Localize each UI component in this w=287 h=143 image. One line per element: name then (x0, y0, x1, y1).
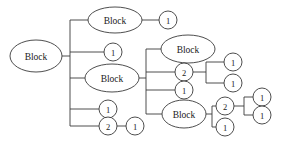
node-label: 2 (223, 102, 227, 112)
node-label: 1 (133, 122, 137, 132)
node-label: 1 (182, 86, 186, 96)
leaf-node[interactable]: 1 (99, 100, 117, 118)
node-label: Block (173, 110, 196, 120)
node-label: 1 (223, 123, 227, 133)
leaf-node[interactable]: 1 (224, 74, 242, 92)
node-label: 1 (231, 58, 235, 68)
node-label: 1 (111, 48, 115, 58)
block-node[interactable]: Block (162, 100, 206, 128)
nodes-layer: BlockBlock11BlockBlock2111Block2111121 (10, 7, 271, 136)
node-label: Block (25, 52, 48, 62)
leaf-node[interactable]: 1 (104, 43, 122, 61)
leaf-node[interactable]: 2 (216, 97, 234, 115)
block-node[interactable]: Block (85, 64, 139, 92)
node-label: 1 (106, 105, 110, 115)
node-label: 1 (260, 93, 264, 103)
leaf-node[interactable]: 1 (216, 118, 234, 136)
node-label: Block (101, 74, 124, 84)
leaf-node[interactable]: 1 (253, 106, 271, 124)
node-label: 1 (166, 16, 170, 26)
node-label: 2 (106, 122, 110, 132)
node-label: Block (104, 16, 127, 26)
tree-diagram-canvas: BlockBlock11BlockBlock2111Block2111121 (0, 0, 287, 143)
block-node[interactable]: Block (10, 40, 62, 72)
block-node[interactable]: Block (161, 35, 215, 63)
node-label: 1 (231, 79, 235, 89)
leaf-node[interactable]: 1 (253, 88, 271, 106)
leaf-node[interactable]: 1 (224, 53, 242, 71)
node-label: 2 (182, 68, 186, 78)
leaf-node[interactable]: 1 (126, 117, 144, 135)
node-label: 1 (260, 111, 264, 121)
block-node[interactable]: Block (88, 7, 142, 33)
leaf-node[interactable]: 2 (99, 117, 117, 135)
leaf-node[interactable]: 1 (159, 11, 177, 29)
node-label: Block (177, 45, 200, 55)
leaf-node[interactable]: 2 (175, 63, 193, 81)
leaf-node[interactable]: 1 (175, 81, 193, 99)
tree-diagram: BlockBlock11BlockBlock2111Block2111121 (0, 0, 287, 143)
